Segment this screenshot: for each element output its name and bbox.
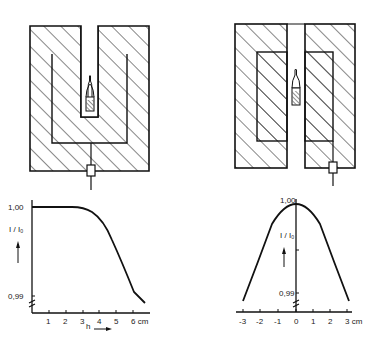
left-xtick: 2	[63, 317, 68, 326]
right-y-bottom-label: 0,99	[279, 289, 295, 298]
right-y-arrow-icon	[282, 247, 286, 267]
right-xtick: 1	[311, 317, 316, 326]
figure-canvas: 1,00 0,99 I / I₀ 1 2 3 4 5 6 cm h	[0, 0, 379, 338]
left-xtick: 3	[80, 317, 85, 326]
right-y-top-label: 1,00	[280, 196, 296, 205]
left-y-arrow-icon	[16, 241, 20, 263]
left-apparatus	[30, 26, 149, 190]
right-inner-cavity-left	[257, 52, 287, 141]
left-x-arrow-icon	[94, 327, 112, 331]
right-inner-cavity-right	[305, 52, 333, 141]
right-xtick: 0	[294, 317, 299, 326]
left-y-axis-label: I / I₀	[9, 225, 23, 234]
right-chart: 1,00 0,99 I / I₀ -3 -2 -1 0 1 2 3 cm	[236, 196, 363, 326]
left-x-axis-label: h	[86, 322, 90, 331]
right-xtick: 3 cm	[345, 317, 363, 326]
right-xtick: -3	[239, 317, 247, 326]
right-xtick: -2	[256, 317, 264, 326]
left-connector-box	[87, 165, 95, 176]
left-y-top-label: 1,00	[8, 203, 24, 212]
right-y-axis-label: I / I₀	[280, 231, 294, 240]
right-xtick: 2	[328, 317, 333, 326]
left-xtick: 4	[97, 317, 102, 326]
left-chart: 1,00 0,99 I / I₀ 1 2 3 4 5 6 cm h	[8, 200, 150, 331]
left-xtick: 6 cm	[131, 317, 149, 326]
left-y-bottom-label: 0,99	[8, 292, 24, 301]
left-xtick: 5	[114, 317, 119, 326]
left-curve	[32, 207, 145, 303]
right-xtick: -1	[274, 317, 282, 326]
right-connector-box	[329, 162, 337, 173]
right-ampoule-icon	[292, 69, 300, 105]
left-xtick: 1	[46, 317, 51, 326]
right-apparatus	[235, 24, 355, 186]
